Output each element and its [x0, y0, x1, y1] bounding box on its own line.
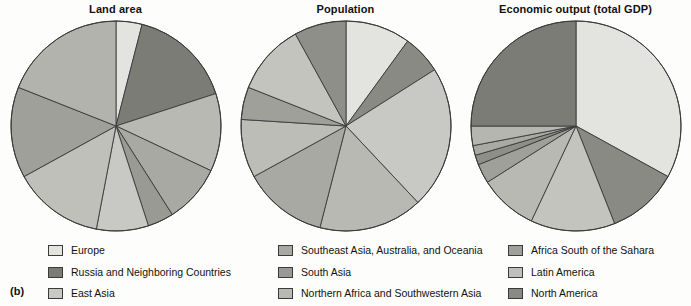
legend-row-3: East Asia Northern Africa and Southweste… [0, 285, 691, 306]
legend-row-2: Russia and Neighboring Countries South A… [0, 264, 691, 286]
legend-item-south-asia: South Asia [278, 264, 351, 280]
legend-item-latin-america: Latin America [508, 264, 595, 280]
legend-swatch-icon [278, 245, 293, 256]
legend-item-europe: Europe [48, 242, 105, 258]
legend-item-label: Africa South of the Sahara [531, 244, 654, 256]
legend-item-label: South Asia [301, 266, 351, 278]
legend-item-africa-south-of-the-sahara: Africa South of the Sahara [508, 242, 654, 258]
legend-swatch-icon [48, 288, 63, 299]
legend-item-southeast-asia-australia-oceania: Southeast Asia, Australia, and Oceania [278, 242, 483, 258]
pie-chart-population [230, 19, 461, 237]
legend-item-label: East Asia [71, 287, 115, 299]
legend-row-1: Europe Southeast Asia, Australia, and Oc… [0, 242, 691, 264]
chart-title-economic-output: Economic output (total GDP) [460, 3, 691, 15]
legend-swatch-icon [48, 267, 63, 278]
chart-title-population: Population [230, 3, 461, 15]
legend-item-label: Southeast Asia, Australia, and Oceania [301, 244, 483, 256]
pie-chart-economic-output [460, 19, 691, 237]
legend-swatch-icon [278, 267, 293, 278]
legend-swatch-icon [278, 288, 293, 299]
pie-chart-land-area [0, 19, 231, 237]
legend-swatch-icon [508, 267, 523, 278]
legend-swatch-icon [508, 245, 523, 256]
legend-item-north-america: North America [508, 285, 598, 301]
panel-letter: (b) [10, 285, 24, 297]
legend-item-northern-africa-and-southwestern-asia: Northern Africa and Southwestern Asia [278, 285, 481, 301]
legend-swatch-icon [48, 245, 63, 256]
figure-panel-b: Land area Population Economic output (to… [0, 0, 691, 306]
legend-swatch-icon [508, 288, 523, 299]
legend-item-label: Latin America [531, 266, 595, 278]
legend-item-label: Europe [71, 244, 105, 256]
legend-item-label: North America [531, 287, 598, 299]
chart-panel-land-area: Land area [0, 0, 231, 240]
legend-item-label: Northern Africa and Southwestern Asia [301, 287, 481, 299]
legend-item-east-asia: East Asia [48, 285, 115, 301]
chart-panel-economic-output: Economic output (total GDP) [460, 0, 691, 240]
chart-panel-population: Population [230, 0, 461, 240]
legend-item-russia-and-neighboring-countries: Russia and Neighboring Countries [48, 264, 231, 280]
pie-slice [471, 21, 576, 126]
legend-item-label: Russia and Neighboring Countries [71, 266, 231, 278]
chart-title-land-area: Land area [0, 3, 231, 15]
